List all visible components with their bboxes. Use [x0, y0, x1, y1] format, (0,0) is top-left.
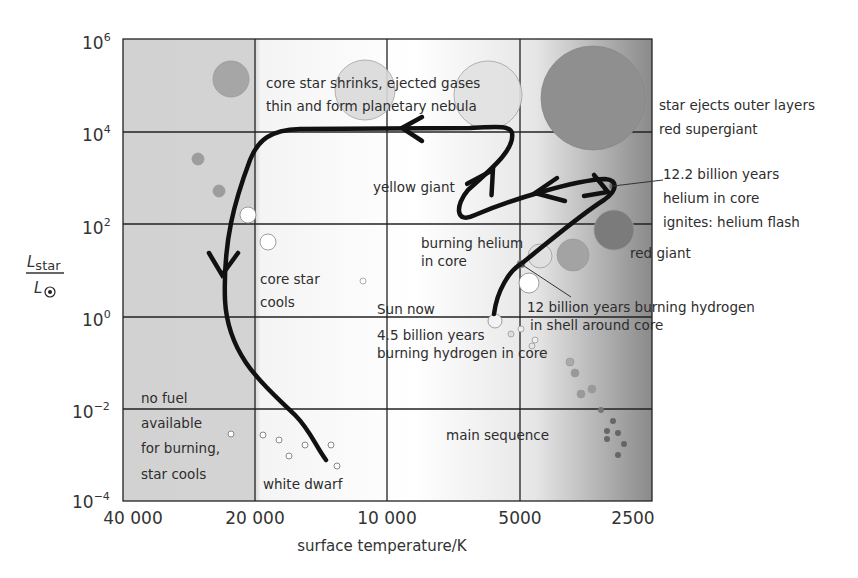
- svg-text:helium in core: helium in core: [663, 190, 759, 206]
- star-sun-now: [488, 314, 502, 328]
- svg-text:5000: 5000: [498, 508, 541, 528]
- svg-text:2500: 2500: [611, 508, 654, 528]
- star-red-giant: [594, 210, 634, 250]
- svg-text:40 000: 40 000: [103, 508, 162, 528]
- svg-text:core star: core star: [260, 271, 320, 287]
- star-blue-supergiant: [213, 61, 249, 97]
- svg-text:ignites: helium flash: ignites: helium flash: [663, 214, 800, 230]
- svg-text:12.2 billion years: 12.2 billion years: [663, 166, 779, 182]
- svg-text:burning hydrogen in core: burning hydrogen in core: [377, 345, 547, 361]
- svg-text:for burning,: for burning,: [141, 440, 220, 456]
- svg-text:burning helium: burning helium: [421, 235, 523, 251]
- svg-text:red giant: red giant: [630, 245, 691, 261]
- svg-text:4.5 billion years: 4.5 billion years: [377, 327, 485, 343]
- svg-text:10−2: 10−2: [72, 400, 110, 422]
- svg-text:100: 100: [82, 308, 111, 330]
- y-axis-label: Lstar L: [26, 253, 64, 297]
- svg-text:L: L: [34, 279, 42, 297]
- x-axis-ticks: 40 000 20 000 10 000 5000 2500: [103, 508, 654, 528]
- svg-text:yellow giant: yellow giant: [373, 179, 455, 195]
- svg-text:core star shrinks, ejected gas: core star shrinks, ejected gases: [266, 75, 480, 91]
- svg-text:Sun now: Sun now: [377, 301, 435, 317]
- hr-diagram: core star shrinks, ejected gases thin an…: [0, 0, 858, 578]
- svg-text:106: 106: [82, 31, 111, 53]
- svg-text:main sequence: main sequence: [446, 427, 549, 443]
- star-red-supergiant: [541, 46, 645, 150]
- svg-text:cools: cools: [260, 294, 295, 310]
- svg-text:in shell around core: in shell around core: [530, 317, 663, 333]
- svg-text:12 billion years burning hydr: 12 billion years burning hydrogen: [527, 299, 755, 315]
- svg-text:available: available: [141, 415, 202, 431]
- svg-text:Lstar: Lstar: [27, 253, 61, 273]
- svg-text:thin and form planetary nebula: thin and form planetary nebula: [266, 98, 477, 114]
- svg-text:104: 104: [82, 123, 111, 145]
- svg-text:20 000: 20 000: [225, 508, 284, 528]
- x-axis-title: surface temperature/K: [297, 537, 468, 555]
- svg-text:white dwarf: white dwarf: [263, 476, 344, 492]
- svg-text:10 000: 10 000: [357, 508, 416, 528]
- svg-text:in core: in core: [421, 253, 467, 269]
- y-axis-ticks: 106 104 102 100 10−2 10−4: [72, 31, 111, 512]
- svg-text:102: 102: [82, 216, 111, 238]
- svg-text:no fuel: no fuel: [141, 390, 187, 406]
- star-planetary-2: [454, 61, 522, 129]
- svg-text:star cools: star cools: [141, 466, 206, 482]
- svg-text:red supergiant: red supergiant: [659, 121, 758, 137]
- svg-text:star ejects outer layers: star ejects outer layers: [659, 97, 815, 113]
